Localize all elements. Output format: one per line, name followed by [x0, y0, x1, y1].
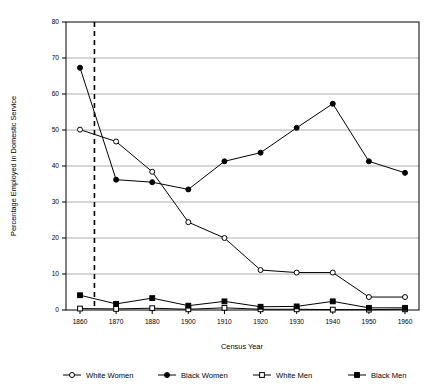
- data-point-1860: [78, 65, 83, 70]
- chart-figure: 01020304050607080 1860187018801900191019…: [0, 0, 435, 392]
- x-tick-label-1880: 1880: [145, 318, 160, 325]
- data-point-1870: [114, 177, 119, 182]
- data-point-1880: [150, 296, 155, 301]
- data-point-1880: [150, 306, 155, 311]
- y-tick-label-0: 0: [55, 306, 59, 313]
- y-tick-label-20: 20: [52, 234, 60, 241]
- data-point-1920: [258, 268, 263, 273]
- data-point-1860: [78, 127, 83, 132]
- data-point-1960: [403, 305, 408, 310]
- data-point-1950: [366, 305, 371, 310]
- x-tick-label-1960: 1960: [398, 318, 413, 325]
- data-point-1960: [403, 295, 408, 300]
- x-tick-label-1870: 1870: [109, 318, 124, 325]
- domestic-service-line-chart: 01020304050607080 1860187018801900191019…: [0, 0, 435, 392]
- y-tick-label-60: 60: [52, 90, 60, 97]
- data-point-1900: [186, 303, 191, 308]
- data-point-1960: [403, 170, 408, 175]
- data-point-1930: [294, 270, 299, 275]
- data-point-1910: [222, 299, 227, 304]
- y-tick-label-50: 50: [52, 126, 60, 133]
- data-point-1870: [114, 307, 119, 312]
- data-point-1910: [222, 305, 227, 310]
- x-tick-label-1900: 1900: [181, 318, 196, 325]
- data-point-1950: [366, 295, 371, 300]
- data-point-1940: [330, 307, 335, 312]
- chart-background: [0, 0, 435, 392]
- x-tick-label-1930: 1930: [289, 318, 304, 325]
- data-point-1880: [150, 180, 155, 185]
- data-point-1930: [294, 125, 299, 130]
- x-axis-title: Census Year: [221, 342, 263, 351]
- data-point-1940: [330, 101, 335, 106]
- legend-marker: [260, 373, 265, 378]
- data-point-1930: [294, 304, 299, 309]
- legend-label: Black Women: [181, 371, 228, 380]
- legend-label: White Women: [86, 371, 134, 380]
- legend-label: White Men: [276, 371, 312, 380]
- data-point-1880: [150, 169, 155, 174]
- x-tick-label-1920: 1920: [253, 318, 268, 325]
- x-tick-label-1910: 1910: [217, 318, 232, 325]
- data-point-1950: [366, 159, 371, 164]
- legend-marker: [165, 373, 170, 378]
- data-point-1900: [186, 220, 191, 225]
- legend-label: Black Men: [371, 371, 406, 380]
- data-point-1900: [186, 187, 191, 192]
- legend-marker: [70, 373, 75, 378]
- y-axis-title: Percentage Employed in Domestic Service: [9, 96, 18, 236]
- data-point-1940: [330, 299, 335, 304]
- y-tick-label-70: 70: [52, 54, 60, 61]
- x-tick-label-1950: 1950: [362, 318, 377, 325]
- legend-marker: [355, 373, 360, 378]
- data-point-1860: [78, 293, 83, 298]
- y-tick-label-30: 30: [52, 198, 60, 205]
- x-tick-label-1860: 1860: [73, 318, 88, 325]
- data-point-1870: [114, 301, 119, 306]
- data-point-1920: [258, 150, 263, 155]
- data-point-1860: [78, 306, 83, 311]
- y-tick-label-80: 80: [52, 18, 60, 25]
- data-point-1920: [258, 304, 263, 309]
- x-tick-label-1940: 1940: [325, 318, 340, 325]
- data-point-1910: [222, 159, 227, 164]
- y-tick-label-40: 40: [52, 162, 60, 169]
- data-point-1940: [330, 270, 335, 275]
- data-point-1870: [114, 139, 119, 144]
- y-tick-label-10: 10: [52, 270, 60, 277]
- data-point-1910: [222, 236, 227, 241]
